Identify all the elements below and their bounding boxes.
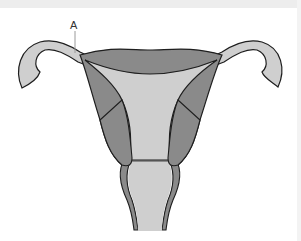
label-a: A [70,20,77,31]
uterus-diagram [0,0,301,241]
